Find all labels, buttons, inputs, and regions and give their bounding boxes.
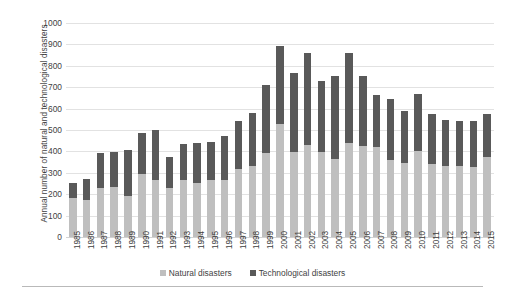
bar-column[interactable] (138, 23, 146, 237)
bar-segment-technological-disasters[interactable] (414, 94, 422, 151)
bar-segment-natural-disasters[interactable] (401, 163, 409, 237)
bar-column[interactable] (97, 23, 105, 237)
bar-column[interactable] (262, 23, 270, 237)
bar-segment-natural-disasters[interactable] (483, 157, 491, 237)
bar-segment-natural-disasters[interactable] (304, 145, 312, 237)
bar-segment-natural-disasters[interactable] (221, 180, 229, 237)
bar-segment-technological-disasters[interactable] (373, 95, 381, 147)
bar-column[interactable] (373, 23, 381, 237)
bar-segment-natural-disasters[interactable] (456, 166, 464, 237)
bar-segment-technological-disasters[interactable] (83, 179, 91, 200)
bar-segment-technological-disasters[interactable] (318, 81, 326, 152)
bar-column[interactable] (124, 23, 132, 237)
bar-column[interactable] (442, 23, 450, 237)
bar-segment-technological-disasters[interactable] (221, 136, 229, 181)
bar-segment-natural-disasters[interactable] (276, 124, 284, 237)
bar-column[interactable] (221, 23, 229, 237)
bar-segment-technological-disasters[interactable] (276, 46, 284, 124)
bar-segment-natural-disasters[interactable] (180, 180, 188, 237)
bar-segment-natural-disasters[interactable] (110, 187, 118, 238)
bar-segment-natural-disasters[interactable] (414, 151, 422, 237)
bar-segment-technological-disasters[interactable] (387, 99, 395, 161)
bar-column[interactable] (414, 23, 422, 237)
bar-column[interactable] (428, 23, 436, 237)
bar-segment-technological-disasters[interactable] (124, 150, 132, 196)
bar-segment-technological-disasters[interactable] (152, 130, 160, 180)
x-axis-tick-label: 1993 (183, 231, 192, 249)
bar-segment-technological-disasters[interactable] (401, 111, 409, 163)
x-axis-tick-label: 1992 (169, 231, 178, 249)
bar-column[interactable] (249, 23, 257, 237)
bar-segment-technological-disasters[interactable] (138, 133, 146, 174)
bar-segment-technological-disasters[interactable] (97, 153, 105, 189)
bar-segment-natural-disasters[interactable] (428, 164, 436, 237)
x-axis-tick-label: 2002 (308, 231, 317, 249)
bar-segment-technological-disasters[interactable] (290, 73, 298, 152)
bar-segment-natural-disasters[interactable] (152, 180, 160, 237)
bar-column[interactable] (318, 23, 326, 237)
bar-column[interactable] (193, 23, 201, 237)
bar-segment-technological-disasters[interactable] (456, 121, 464, 166)
bar-column[interactable] (483, 23, 491, 237)
y-axis-tick-label: 0 (22, 232, 62, 242)
bar-segment-natural-disasters[interactable] (373, 147, 381, 237)
bar-column[interactable] (69, 23, 77, 237)
x-axis-tick-label: 2013 (460, 231, 469, 249)
bar-segment-technological-disasters[interactable] (110, 152, 118, 187)
bar-column[interactable] (166, 23, 174, 237)
bar-segment-natural-disasters[interactable] (235, 169, 243, 237)
bar-column[interactable] (401, 23, 409, 237)
bar-segment-technological-disasters[interactable] (69, 183, 77, 198)
legend-item[interactable]: Technological disasters (250, 268, 346, 278)
bar-segment-technological-disasters[interactable] (193, 143, 201, 183)
bar-segment-natural-disasters[interactable] (331, 159, 339, 237)
bar-column[interactable] (276, 23, 284, 237)
bar-segment-natural-disasters[interactable] (318, 152, 326, 237)
bar-column[interactable] (387, 23, 395, 237)
bar-column[interactable] (304, 23, 312, 237)
bar-segment-technological-disasters[interactable] (428, 114, 436, 164)
bar-column[interactable] (456, 23, 464, 237)
bar-segment-technological-disasters[interactable] (235, 121, 243, 169)
bar-column[interactable] (83, 23, 91, 237)
bar-segment-technological-disasters[interactable] (345, 53, 353, 143)
bar-segment-technological-disasters[interactable] (442, 120, 450, 167)
bar-segment-natural-disasters[interactable] (207, 180, 215, 237)
bar-column[interactable] (331, 23, 339, 237)
bar-column[interactable] (470, 23, 478, 237)
bar-segment-natural-disasters[interactable] (359, 146, 367, 237)
bar-column[interactable] (110, 23, 118, 237)
bar-segment-natural-disasters[interactable] (193, 183, 201, 237)
bar-segment-technological-disasters[interactable] (304, 53, 312, 145)
y-axis-tick-label: 500 (22, 125, 62, 135)
bar-column[interactable] (180, 23, 188, 237)
bar-segment-technological-disasters[interactable] (331, 76, 339, 159)
bar-column[interactable] (345, 23, 353, 237)
y-axis-tick-label: 600 (22, 104, 62, 114)
bar-segment-technological-disasters[interactable] (470, 121, 478, 166)
bar-segment-technological-disasters[interactable] (249, 113, 257, 166)
bar-column[interactable] (359, 23, 367, 237)
bar-segment-technological-disasters[interactable] (166, 157, 174, 189)
bar-segment-natural-disasters[interactable] (97, 188, 105, 237)
bar-segment-natural-disasters[interactable] (166, 188, 174, 237)
bar-segment-natural-disasters[interactable] (290, 152, 298, 237)
bar-segment-technological-disasters[interactable] (207, 142, 215, 180)
bar-segment-natural-disasters[interactable] (138, 174, 146, 237)
bar-segment-technological-disasters[interactable] (483, 114, 491, 156)
bar-segment-natural-disasters[interactable] (345, 143, 353, 237)
bar-segment-technological-disasters[interactable] (262, 85, 270, 153)
bar-segment-natural-disasters[interactable] (442, 166, 450, 237)
bar-column[interactable] (152, 23, 160, 237)
x-axis-tick-slot: 1988 (110, 239, 118, 267)
bar-column[interactable] (207, 23, 215, 237)
bar-segment-technological-disasters[interactable] (359, 76, 367, 147)
bar-segment-natural-disasters[interactable] (387, 160, 395, 237)
bar-segment-natural-disasters[interactable] (470, 167, 478, 237)
bar-segment-natural-disasters[interactable] (249, 166, 257, 237)
bar-column[interactable] (235, 23, 243, 237)
legend-item[interactable]: Natural disasters (160, 268, 232, 278)
bar-segment-natural-disasters[interactable] (262, 153, 270, 237)
bar-segment-technological-disasters[interactable] (180, 144, 188, 180)
bar-column[interactable] (290, 23, 298, 237)
